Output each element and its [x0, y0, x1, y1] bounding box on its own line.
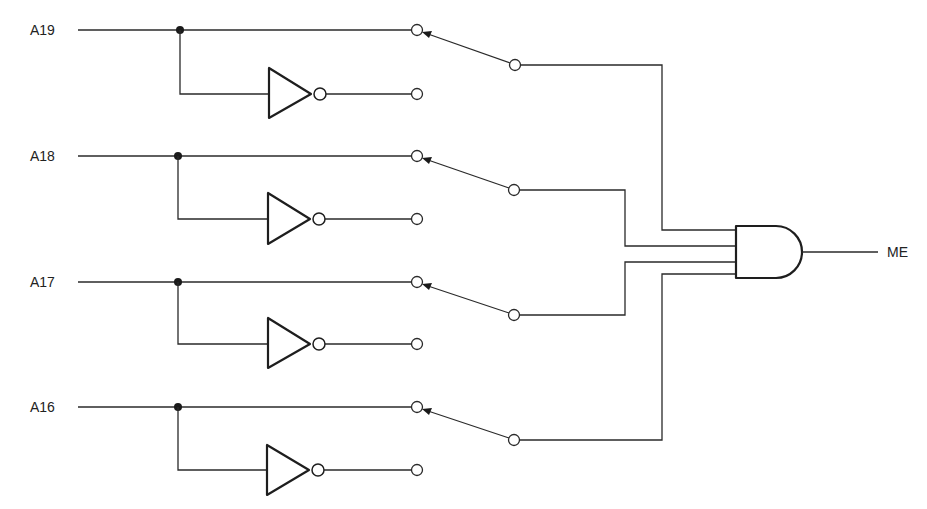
- inverter-bubble-a17: [313, 338, 325, 350]
- output-wire-a18: [520, 190, 736, 246]
- inverter-icon-a17: [268, 318, 310, 368]
- switch-contact-true-a18[interactable]: [412, 151, 423, 162]
- switch-contact-inverted-a17[interactable]: [412, 339, 423, 350]
- switch-arm-a18[interactable]: [428, 160, 509, 188]
- inverter-feed-wire-a16: [178, 407, 267, 470]
- switch-contact-true-a16[interactable]: [412, 402, 423, 413]
- inverter-icon-a16: [267, 445, 309, 495]
- stage-a18: A18: [30, 148, 736, 246]
- and-gate-group: ME: [736, 226, 908, 278]
- switch-contact-inverted-a18[interactable]: [412, 214, 423, 225]
- switch-arrow-icon-a19: [422, 31, 432, 38]
- switch-arrow-icon-a18: [422, 157, 432, 164]
- inverter-feed-wire-a18: [178, 156, 268, 219]
- inverter-icon-a19: [269, 68, 311, 118]
- output-label-me: ME: [887, 244, 908, 260]
- switch-common-a19[interactable]: [510, 60, 521, 71]
- output-wire-a16: [520, 274, 736, 440]
- switch-common-a17[interactable]: [509, 310, 520, 321]
- switch-common-a18[interactable]: [509, 185, 520, 196]
- inverter-bubble-a18: [313, 213, 325, 225]
- stage-a17: A17: [30, 262, 736, 368]
- switch-arm-a16[interactable]: [428, 411, 509, 438]
- inverter-icon-a18: [268, 193, 310, 244]
- stage-a19: A19: [30, 22, 736, 230]
- switch-contact-inverted-a16[interactable]: [412, 465, 423, 476]
- memory-enable-circuit: A19 A18 A17: [0, 0, 927, 509]
- and-gate-icon: [736, 226, 802, 278]
- input-label-a19: A19: [30, 22, 55, 38]
- inverter-bubble-a19: [314, 88, 326, 100]
- switch-arm-a19[interactable]: [428, 34, 510, 63]
- input-label-a16: A16: [30, 399, 55, 415]
- switch-contact-true-a19[interactable]: [412, 25, 423, 36]
- inverter-feed-wire-a19: [180, 30, 268, 94]
- input-label-a17: A17: [30, 274, 55, 290]
- inverter-bubble-a16: [312, 464, 324, 476]
- switch-contact-true-a17[interactable]: [412, 277, 423, 288]
- input-label-a18: A18: [30, 148, 55, 164]
- switch-common-a16[interactable]: [509, 435, 520, 446]
- output-wire-a19: [521, 65, 736, 230]
- stage-a16: A16: [30, 274, 736, 495]
- switch-arrow-icon-a17: [422, 283, 432, 290]
- switch-arrow-icon-a16: [422, 408, 432, 415]
- inverter-feed-wire-a17: [178, 282, 268, 344]
- switch-contact-inverted-a19[interactable]: [412, 89, 423, 100]
- switch-arm-a17[interactable]: [428, 286, 509, 313]
- output-wire-a17: [520, 262, 736, 315]
